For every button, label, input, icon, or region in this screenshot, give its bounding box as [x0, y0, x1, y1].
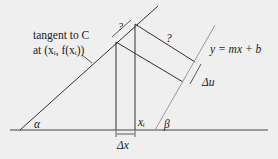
beta-label: β	[164, 119, 170, 131]
delta-u-label: Δu	[202, 77, 215, 89]
tangent-label-line1: tangent to C	[33, 30, 89, 42]
tangent-label-line2: at (xᵢ, f(xᵢ))	[33, 45, 84, 57]
delta-x-label: Δx	[117, 140, 129, 152]
xi-label: xᵢ	[138, 117, 145, 129]
diagram-canvas	[0, 0, 278, 159]
perpendicular-upper	[135, 24, 195, 62]
delta-u-dimension	[190, 64, 201, 84]
line-equation-label: y = mx + b	[210, 44, 261, 56]
alpha-label: α	[34, 119, 40, 131]
unknown-right-label: ?	[166, 33, 172, 45]
unknown-top-label: ?	[118, 22, 123, 32]
tangent-line	[20, 6, 158, 130]
